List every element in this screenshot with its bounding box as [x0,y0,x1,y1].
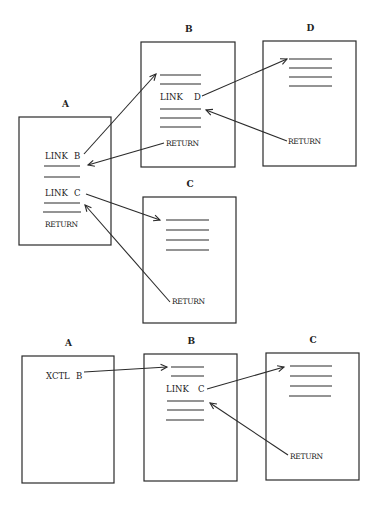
section-link-return-flow: ALINKBLINKCRETURNBLINKDRETURNDRETURNCRET… [19,23,356,323]
program-box-c: CRETURN [143,179,236,323]
box-outline [144,354,237,481]
program-box-c2: CRETURN [266,335,359,480]
statement-label: D [194,92,201,102]
statement-label: RETURN [290,452,324,461]
statement-label: LINK [160,92,183,102]
program-box-b2: BLINKC [144,336,237,481]
box-outline [263,41,356,166]
box-title: B [185,24,193,34]
statement-label: XCTL [46,371,70,381]
box-title: B [188,336,196,346]
section-xctl-flow: AXCTLBBLINKCCRETURN [22,335,359,483]
box-title: D [307,23,315,33]
program-box-d: DRETURN [263,23,356,166]
statement-label: B [76,371,82,381]
box-title: A [61,99,70,109]
program-flow-diagram: ALINKBLINKCRETURNBLINKDRETURNDRETURNCRET… [0,0,378,513]
box-title: A [64,338,73,348]
box-title: C [310,335,317,345]
statement-label: RETURN [166,139,200,148]
box-title: C [187,179,194,189]
statement-label: RETURN [172,297,206,306]
statement-label: RETURN [45,220,79,229]
statement-label: LINK [45,151,68,161]
statement-label: C [74,188,81,198]
statement-label: LINK [45,188,68,198]
statement-label: RETURN [288,137,322,146]
program-box-a2: AXCTLB [22,338,114,483]
statement-label: B [74,151,80,161]
box-outline [141,42,235,167]
statement-label: LINK [166,384,189,394]
program-box-a: ALINKBLINKCRETURN [19,99,111,245]
statement-label: C [198,384,205,394]
